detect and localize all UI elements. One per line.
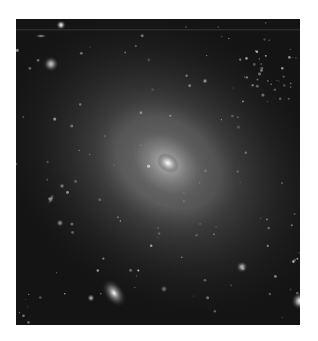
galaxy-image xyxy=(16,19,300,325)
faint-source xyxy=(290,83,292,85)
faint-source xyxy=(157,237,158,238)
faint-source xyxy=(260,63,261,64)
faint-source xyxy=(260,69,263,72)
faint-source xyxy=(279,80,280,81)
faint-source xyxy=(140,111,143,114)
faint-source xyxy=(290,49,291,50)
faint-source xyxy=(288,56,290,58)
faint-source xyxy=(134,287,135,288)
faint-source xyxy=(296,292,299,295)
faint-source xyxy=(71,231,74,234)
faint-source xyxy=(258,72,261,75)
faint-source xyxy=(78,150,79,151)
galaxy-upper-left xyxy=(43,56,59,72)
faint-source xyxy=(37,59,40,62)
faint-source xyxy=(282,317,283,318)
faint-source xyxy=(237,170,239,172)
faint-source xyxy=(135,45,137,47)
galaxy-left xyxy=(56,219,64,227)
faint-source xyxy=(215,226,217,228)
faint-source xyxy=(169,115,171,117)
faint-source xyxy=(294,213,296,215)
faint-source xyxy=(117,216,119,218)
faint-source xyxy=(267,80,268,81)
faint-source xyxy=(245,152,247,154)
faint-galaxy-bottom xyxy=(160,285,168,293)
faint-source xyxy=(22,314,25,317)
faint-source xyxy=(261,93,264,96)
star-lower-left xyxy=(87,294,95,302)
faint-source xyxy=(233,87,234,88)
faint-source xyxy=(79,103,81,105)
faint-source xyxy=(268,40,270,42)
faint-source xyxy=(193,295,194,296)
faint-source xyxy=(150,245,152,247)
faint-source xyxy=(137,269,139,271)
faint-source xyxy=(263,38,265,40)
faint-source xyxy=(199,223,200,224)
faint-source xyxy=(206,55,207,56)
faint-source xyxy=(218,26,220,28)
faint-source xyxy=(199,182,200,183)
faint-source xyxy=(97,269,100,272)
faint-source xyxy=(113,164,115,166)
faint-source xyxy=(204,169,207,172)
faint-source xyxy=(265,55,267,57)
faint-source xyxy=(141,34,144,37)
faint-source xyxy=(23,116,25,118)
faint-source xyxy=(89,154,90,155)
faint-source xyxy=(268,293,271,296)
faint-source xyxy=(288,98,290,100)
faint-source xyxy=(291,224,293,226)
star-upper-middle xyxy=(202,78,208,84)
faint-source xyxy=(66,191,69,194)
faint-source xyxy=(98,198,101,201)
faint-source xyxy=(279,98,282,101)
faint-source xyxy=(206,296,209,299)
faint-source xyxy=(195,234,198,237)
faint-source xyxy=(290,86,292,88)
faint-source xyxy=(253,63,256,66)
faint-source xyxy=(70,222,73,225)
galaxy-streak-upper-left xyxy=(35,34,47,38)
faint-source xyxy=(104,135,106,137)
faint-source xyxy=(100,293,101,294)
faint-source xyxy=(19,312,20,313)
faint-source xyxy=(267,227,270,230)
faint-source xyxy=(151,88,154,91)
faint-source xyxy=(242,101,244,103)
faint-source xyxy=(27,321,30,324)
faint-source xyxy=(90,46,91,47)
galaxy-photograph xyxy=(16,19,300,325)
faint-source xyxy=(228,38,230,40)
faint-source xyxy=(185,75,187,77)
faint-source xyxy=(140,144,142,146)
faint-source xyxy=(204,279,207,282)
faint-source xyxy=(266,219,268,221)
faint-source xyxy=(246,76,248,78)
faint-source xyxy=(48,198,50,200)
faint-source xyxy=(239,59,241,61)
faint-source xyxy=(253,85,254,86)
faint-source xyxy=(74,180,77,183)
faint-source xyxy=(102,258,104,260)
faint-source xyxy=(46,161,48,163)
faint-source xyxy=(214,310,216,312)
faint-source xyxy=(295,57,296,58)
faint-source xyxy=(158,232,161,235)
faint-source xyxy=(25,299,26,300)
faint-source xyxy=(281,67,283,69)
faint-source xyxy=(257,79,259,81)
faint-source xyxy=(274,275,277,278)
faint-source xyxy=(147,165,150,168)
faint-source xyxy=(283,84,285,86)
faint-source xyxy=(293,259,296,262)
faint-source xyxy=(256,85,259,88)
faint-source xyxy=(182,192,184,194)
faint-source xyxy=(181,257,182,258)
faint-source xyxy=(120,220,122,222)
faint-source xyxy=(56,272,57,273)
faint-source xyxy=(28,294,29,295)
faint-source xyxy=(296,258,298,260)
faint-source xyxy=(274,89,277,92)
